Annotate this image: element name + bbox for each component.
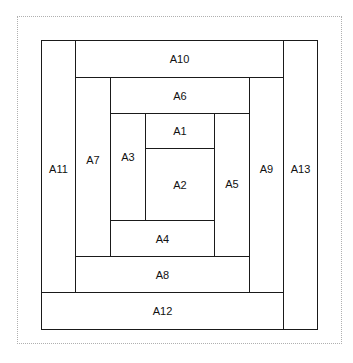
region-a9: A9: [249, 77, 284, 293]
region-a13: A13: [283, 40, 318, 330]
region-label: A8: [156, 269, 169, 281]
region-label: A5: [225, 178, 238, 190]
region-a10: A10: [75, 40, 284, 78]
region-label: A7: [86, 154, 99, 166]
region-label: A10: [170, 53, 190, 65]
region-a5: A5: [214, 113, 250, 257]
region-label: A2: [173, 179, 186, 191]
region-a7: A7: [75, 77, 111, 257]
region-label: A4: [156, 233, 169, 245]
region-label: A12: [153, 305, 173, 317]
region-label: A13: [291, 163, 311, 175]
region-a2: A2: [145, 148, 215, 221]
region-label: A11: [49, 163, 68, 175]
region-label: A1: [173, 125, 186, 137]
region-a3: A3: [110, 113, 146, 221]
region-label: A6: [173, 90, 186, 102]
region-a4: A4: [110, 220, 215, 257]
region-label: A9: [260, 163, 273, 175]
region-a11: A11: [41, 40, 76, 293]
region-a12: A12: [41, 292, 284, 330]
region-a6: A6: [110, 77, 250, 114]
region-a8: A8: [75, 256, 250, 293]
region-a1: A1: [145, 113, 215, 149]
region-label: A3: [121, 151, 134, 163]
